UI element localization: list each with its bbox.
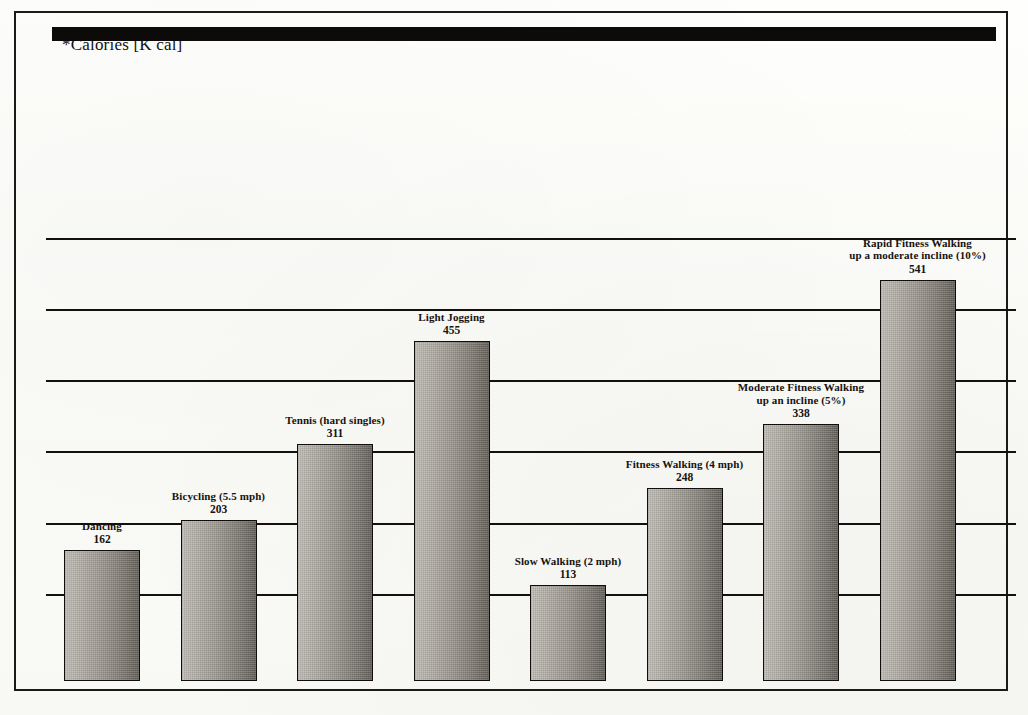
- bar: [647, 488, 723, 681]
- bar-category-label: Light Jogging: [340, 311, 564, 323]
- bar: [763, 424, 839, 681]
- plot-area: 162Dancing203Bicycling (5.5 mph)311Tenni…: [38, 27, 1016, 703]
- bar-value-label: 541: [858, 263, 978, 275]
- bar-value-label: 338: [741, 407, 861, 419]
- gridline: [46, 451, 1016, 453]
- bar: [880, 280, 956, 681]
- gridline: [46, 309, 1016, 311]
- gridline: [46, 238, 1016, 240]
- bar-category-label: Rapid Fitness Walking up a moderate incl…: [806, 237, 1028, 262]
- bar: [297, 444, 373, 681]
- chart-frame: *Calories [K cal] 162Dancing203Bicycling…: [14, 11, 1008, 691]
- bar-value-label: 455: [392, 324, 512, 336]
- bar-value-label: 311: [275, 427, 395, 439]
- bar: [181, 520, 257, 681]
- bar: [414, 341, 490, 681]
- bar-value-label: 203: [159, 503, 279, 515]
- bar-value-label: 248: [625, 471, 745, 483]
- bar-value-label: 113: [508, 568, 628, 580]
- bar: [64, 550, 140, 681]
- gridline: [46, 380, 1016, 382]
- bar-value-label: 162: [42, 533, 162, 545]
- bar: [530, 585, 606, 681]
- baseline-bar: [52, 27, 996, 41]
